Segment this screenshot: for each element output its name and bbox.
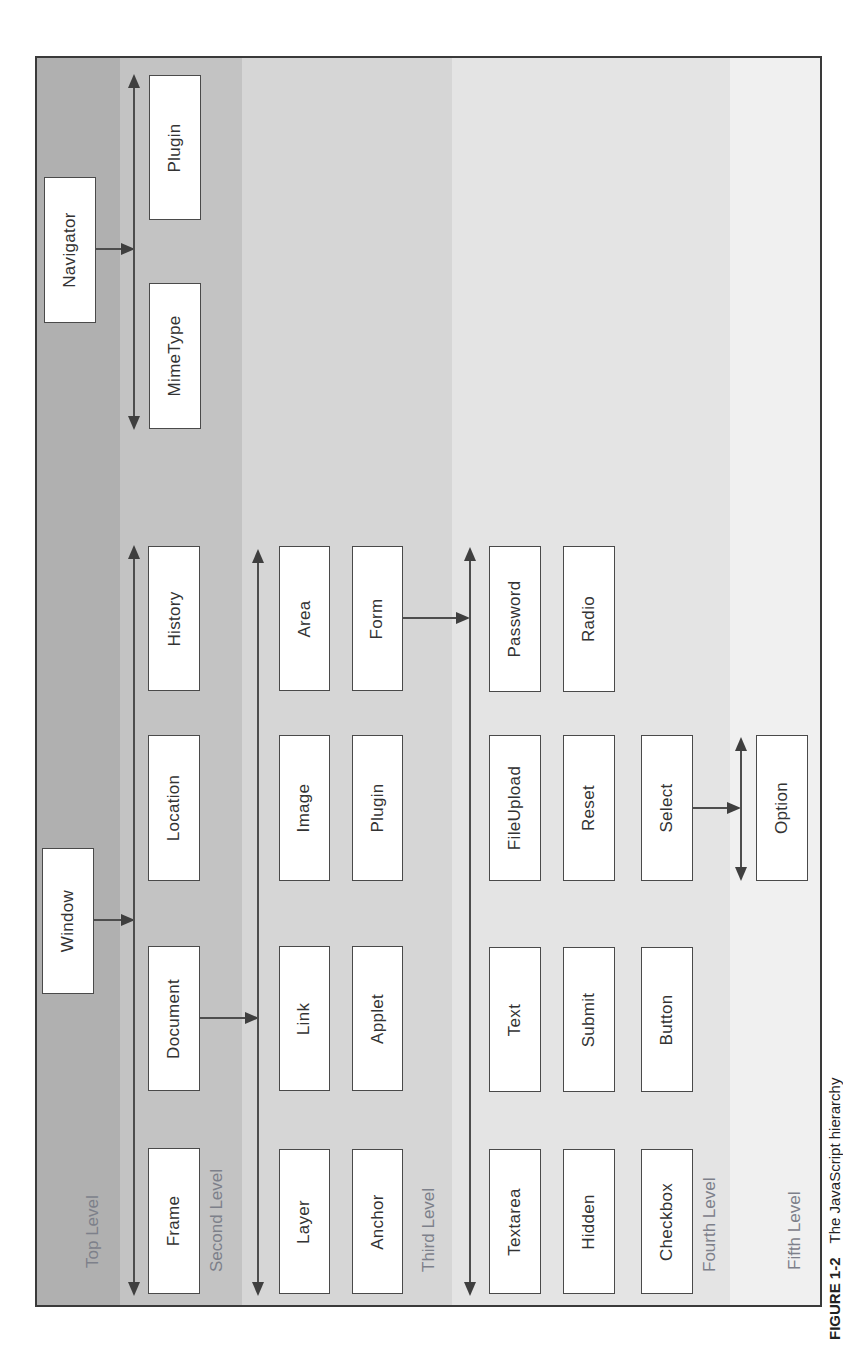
node-password: Password [489, 546, 541, 692]
arrowhead-down-icon [464, 1282, 476, 1296]
connector-window-bus [133, 556, 135, 1286]
node-document: Document [148, 946, 200, 1091]
node-reset: Reset [563, 735, 615, 881]
arrowhead-down-icon [252, 1282, 264, 1296]
arrowhead-down-icon [128, 1282, 140, 1296]
connector-form [403, 617, 459, 619]
level-label-top: Top Level [83, 1195, 103, 1268]
connector-navigator-bus [133, 85, 135, 419]
node-button: Button [641, 947, 693, 1092]
connector-form-bus [469, 558, 471, 1286]
node-select: Select [641, 735, 693, 881]
figure-caption-label: FIGURE 1-2 [826, 1257, 843, 1340]
arrowhead-down-icon [735, 867, 747, 881]
connector-document [200, 1017, 248, 1019]
arrowhead-up-icon [128, 545, 140, 559]
band-fifth-level [730, 58, 820, 1305]
node-hidden: Hidden [563, 1149, 615, 1294]
level-label-fifth: Fifth Level [785, 1192, 805, 1270]
node-frame: Frame [148, 1148, 200, 1294]
figure-caption: FIGURE 1-2The JavaScript hierarchy [826, 1078, 843, 1340]
arrowhead-down-icon [128, 416, 140, 430]
node-anchor: Anchor [352, 1149, 403, 1294]
arrowhead-up-icon [252, 549, 264, 563]
arrowhead-right-icon [727, 802, 741, 814]
node-radio: Radio [563, 546, 615, 692]
level-label-third: Third Level [419, 1188, 439, 1272]
node-window: Window [42, 848, 94, 994]
node-mimetype: MimeType [149, 283, 201, 429]
node-textarea: Textarea [489, 1149, 541, 1294]
node-plugin-document: Plugin [352, 735, 403, 881]
connector-window [94, 919, 124, 921]
connector-document-bus [257, 560, 259, 1286]
node-checkbox: Checkbox [641, 1149, 693, 1294]
node-link: Link [279, 946, 330, 1091]
arrowhead-up-icon [464, 547, 476, 561]
node-image: Image [279, 735, 330, 881]
node-applet: Applet [352, 946, 403, 1091]
level-label-fourth: Fourth Level [700, 1178, 720, 1273]
band-third-level [242, 58, 452, 1305]
level-label-second: Second Level [207, 1169, 227, 1272]
node-area: Area [279, 546, 330, 691]
connector-navigator [96, 248, 124, 250]
arrowhead-up-icon [735, 737, 747, 751]
node-fileupload: FileUpload [489, 735, 541, 881]
node-submit: Submit [563, 947, 615, 1092]
node-form: Form [352, 546, 403, 691]
connector-select-bus [740, 748, 742, 870]
connector-select [693, 807, 729, 809]
node-plugin-navigator: Plugin [149, 75, 201, 220]
node-text: Text [489, 947, 541, 1092]
arrowhead-up-icon [128, 74, 140, 88]
node-location: Location [148, 735, 200, 881]
arrowhead-right-icon [456, 612, 470, 624]
node-option: Option [756, 735, 808, 881]
figure-caption-text: The JavaScript hierarchy [826, 1078, 843, 1244]
node-navigator: Navigator [44, 177, 96, 323]
node-layer: Layer [279, 1149, 330, 1294]
node-history: History [148, 546, 200, 691]
